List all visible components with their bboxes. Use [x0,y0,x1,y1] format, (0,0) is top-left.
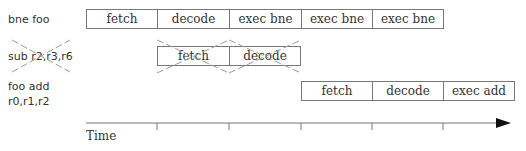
time-axis-label: Time [86,129,116,143]
stage-decode-cancelled: decode [229,46,301,66]
stage-decode: decode [372,81,444,101]
stage-fetch: fetch [86,9,158,29]
arrow-right-icon [496,118,511,128]
stage-decode: decode [157,9,230,29]
stage-fetch-cancelled: fetch [157,46,230,66]
time-axis [86,118,511,130]
stage-fetch: fetch [301,81,373,101]
stage-exec-bne-3: exec bne [372,9,444,29]
row-label-sub: sub r2,r3,r6 [8,49,73,64]
stage-exec-bne-2: exec bne [301,9,373,29]
stage-exec-add: exec add [443,81,515,101]
stage-exec-bne-1: exec bne [229,9,302,29]
row-label-bne-foo: bne foo [8,12,50,27]
row-label-foo-add-line2: r0,r1,r2 [8,94,50,109]
row-label-foo-add-line1: foo add [8,79,50,94]
